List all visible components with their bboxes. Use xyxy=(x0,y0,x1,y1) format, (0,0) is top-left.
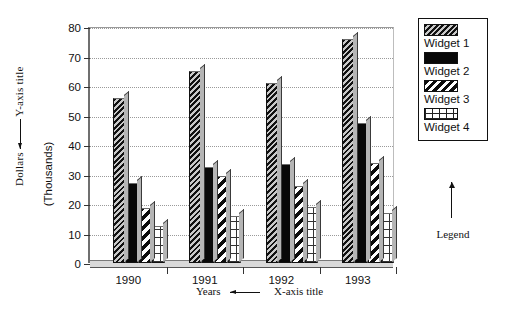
bar xyxy=(113,98,126,263)
y-axis-tick-label: 60 xyxy=(68,81,81,93)
y-axis-callout-text: Y-axis title xyxy=(13,66,25,116)
plot-area: 01020304050607080 1990199119921993 xyxy=(88,27,394,263)
x-axis-tick-label: 1990 xyxy=(115,274,141,286)
bar-group-1993 xyxy=(342,39,394,263)
legend-item-label: Widget 3 xyxy=(424,92,483,107)
legend-swatch-icon xyxy=(424,108,458,120)
bar-group-1992 xyxy=(266,83,318,263)
y-axis-label-text: Dollars xyxy=(13,152,25,186)
y-axis-annotation: Dollars Y-axis title xyxy=(13,76,25,186)
legend-item-1[interactable]: Widget 1 xyxy=(424,24,483,51)
y-axis-tick-label: 20 xyxy=(68,199,81,211)
y-axis-tick-label: 10 xyxy=(68,229,81,241)
legend-item-3[interactable]: Widget 3 xyxy=(424,80,483,107)
y-axis-label-column: Dollars Y-axis title (Thousands) xyxy=(0,0,64,311)
y-axis-tick-label: 30 xyxy=(68,170,81,182)
bar xyxy=(266,83,279,263)
legend-box: Widget 1Widget 2Widget 3Widget 4 xyxy=(418,18,488,141)
x-axis-tick xyxy=(320,267,321,274)
y-axis-tick-label: 50 xyxy=(68,111,81,123)
x-axis-callout-text: X-axis title xyxy=(274,285,323,297)
y-axis-tick-label: 70 xyxy=(68,52,81,64)
legend-item-4[interactable]: Widget 4 xyxy=(424,108,483,135)
bar-series-container xyxy=(90,28,393,263)
legend-callout-text: Legend xyxy=(420,228,486,240)
x-axis-tick xyxy=(243,267,244,274)
legend-item-label: Widget 1 xyxy=(424,36,483,51)
y-axis-units-label: (Thousands) xyxy=(42,130,54,218)
x-axis-tick-label: 1993 xyxy=(345,274,371,286)
x-axis-tick xyxy=(167,267,168,274)
y-axis-tick-label: 40 xyxy=(68,140,81,152)
x-axis-label-text: Years xyxy=(196,285,221,297)
y-axis-tick xyxy=(84,264,90,265)
legend-arrow-icon xyxy=(451,182,452,218)
chart-figure: Dollars Y-axis title (Thousands) 0102030… xyxy=(0,0,511,311)
legend-item-label: Widget 2 xyxy=(424,64,483,79)
x-axis-tick xyxy=(396,267,397,274)
y-axis-tick-label: 80 xyxy=(68,22,81,34)
legend-swatch-icon xyxy=(424,80,458,92)
bar xyxy=(342,39,355,263)
legend-swatch-icon xyxy=(424,24,458,36)
legend-item-label: Widget 4 xyxy=(424,120,483,135)
bar xyxy=(189,71,202,263)
y-axis-tick-label: 0 xyxy=(75,258,81,270)
legend-swatch-icon xyxy=(424,52,458,64)
bar-group-1990 xyxy=(113,98,165,263)
bar-group-1991 xyxy=(189,71,241,263)
legend-item-2[interactable]: Widget 2 xyxy=(424,52,483,79)
x-axis-annotation: Years X-axis title xyxy=(196,285,323,297)
